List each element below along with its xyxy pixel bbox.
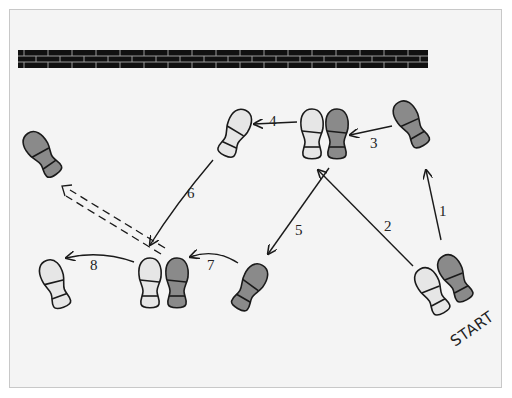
step-label-6: 6 (187, 185, 195, 201)
step-label-4: 4 (269, 113, 277, 129)
step-label-7: 7 (207, 257, 215, 273)
arrow-step-5 (268, 168, 329, 254)
footprint-step-1 (389, 97, 433, 151)
footprint-step-5 (228, 260, 272, 314)
arrow-step-8 (66, 255, 134, 262)
step-label-5: 5 (295, 222, 303, 238)
footprint-step-3 (326, 109, 348, 159)
arrow-step-2 (318, 170, 413, 266)
step-label-2: 2 (384, 218, 392, 234)
step-diagram: 1 2 3 4 5 6 7 8 START (0, 0, 512, 398)
arrow-step-6 (150, 160, 213, 245)
step-label-1: 1 (439, 203, 447, 219)
footprint-step-7 (166, 258, 188, 308)
start-label: START (447, 307, 498, 350)
wall (18, 50, 428, 68)
footprint-step-2 (301, 109, 323, 159)
footprint-dashed-target (19, 127, 66, 181)
footprint-step-4 (214, 106, 255, 161)
step-label-3: 3 (370, 135, 378, 151)
step-label-8: 8 (90, 257, 98, 273)
arrow-step-3 (350, 126, 392, 135)
dashed-arrow (62, 185, 165, 254)
footprint-step-8 (36, 257, 74, 311)
footprint-step-6 (139, 258, 161, 308)
